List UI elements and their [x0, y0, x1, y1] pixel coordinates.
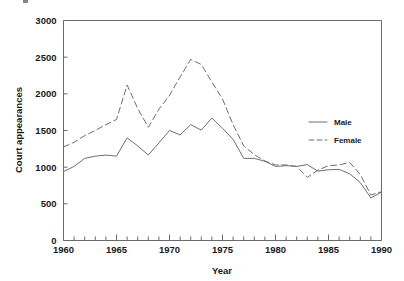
y-axis-ticks [64, 21, 68, 241]
x-axis-label: Year [212, 265, 232, 276]
x-tick-label: 1975 [212, 244, 234, 255]
y-tick-label: 1500 [35, 125, 56, 136]
y-tick-label: 3000 [35, 15, 56, 26]
series-line-female [64, 59, 382, 195]
chart-legend: MaleFemale [309, 118, 362, 145]
y-tick-label: 2000 [35, 88, 56, 99]
x-tick-label: 1985 [318, 244, 340, 255]
x-tick-label: 1970 [159, 244, 180, 255]
chart-figure: 050010001500200025003000 196019651970197… [0, 0, 404, 281]
y-tick-label: 1000 [35, 162, 56, 173]
legend-label-female: Female [334, 136, 362, 145]
x-axis-ticks [64, 235, 382, 241]
y-axis-label: Court appearances [13, 87, 24, 173]
data-series-group [64, 59, 382, 198]
series-line-male [64, 118, 382, 198]
line-chart: 050010001500200025003000 196019651970197… [0, 0, 404, 281]
x-axis-tick-labels: 1960196519701975198019851990 [53, 244, 392, 255]
x-tick-label: 1990 [371, 244, 392, 255]
y-tick-label: 2500 [35, 52, 56, 63]
legend-label-male: Male [334, 118, 352, 127]
y-tick-label: 500 [41, 198, 57, 209]
x-tick-label: 1980 [265, 244, 286, 255]
y-axis-tick-labels: 050010001500200025003000 [35, 15, 56, 246]
plot-frame [64, 21, 382, 241]
x-tick-label: 1965 [106, 244, 128, 255]
clipped-text-artifact [23, 0, 28, 3]
x-tick-label: 1960 [53, 244, 74, 255]
